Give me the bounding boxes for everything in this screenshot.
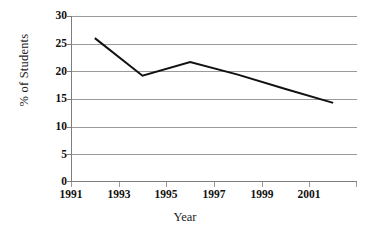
data-line-svg bbox=[71, 16, 357, 182]
y-tick-label-30: 30 bbox=[33, 10, 67, 21]
y-tick-label-10: 10 bbox=[33, 121, 67, 132]
x-axis-title: Year bbox=[0, 210, 370, 225]
x-tick-label-2001: 2001 bbox=[279, 188, 339, 200]
x-tick-mark-1 bbox=[119, 182, 120, 187]
x-tick-mark-5 bbox=[309, 182, 310, 187]
line-chart: % of Students 30 25 20 15 10 5 0 19 bbox=[0, 0, 370, 239]
x-tick-mark-0 bbox=[71, 182, 72, 187]
x-tick-mark-3 bbox=[214, 182, 215, 187]
y-tick-label-0: 0 bbox=[33, 176, 67, 187]
series-line-pct-of-students bbox=[95, 38, 333, 103]
plot-area bbox=[71, 16, 357, 182]
y-tick-label-25: 25 bbox=[33, 38, 67, 49]
x-tick-mark-4 bbox=[262, 182, 263, 187]
y-tick-label-20: 20 bbox=[33, 66, 67, 77]
y-tick-label-15: 15 bbox=[33, 93, 67, 104]
x-tick-mark-6 bbox=[356, 182, 357, 187]
y-tick-label-5: 5 bbox=[33, 149, 67, 160]
x-tick-mark-2 bbox=[166, 182, 167, 187]
